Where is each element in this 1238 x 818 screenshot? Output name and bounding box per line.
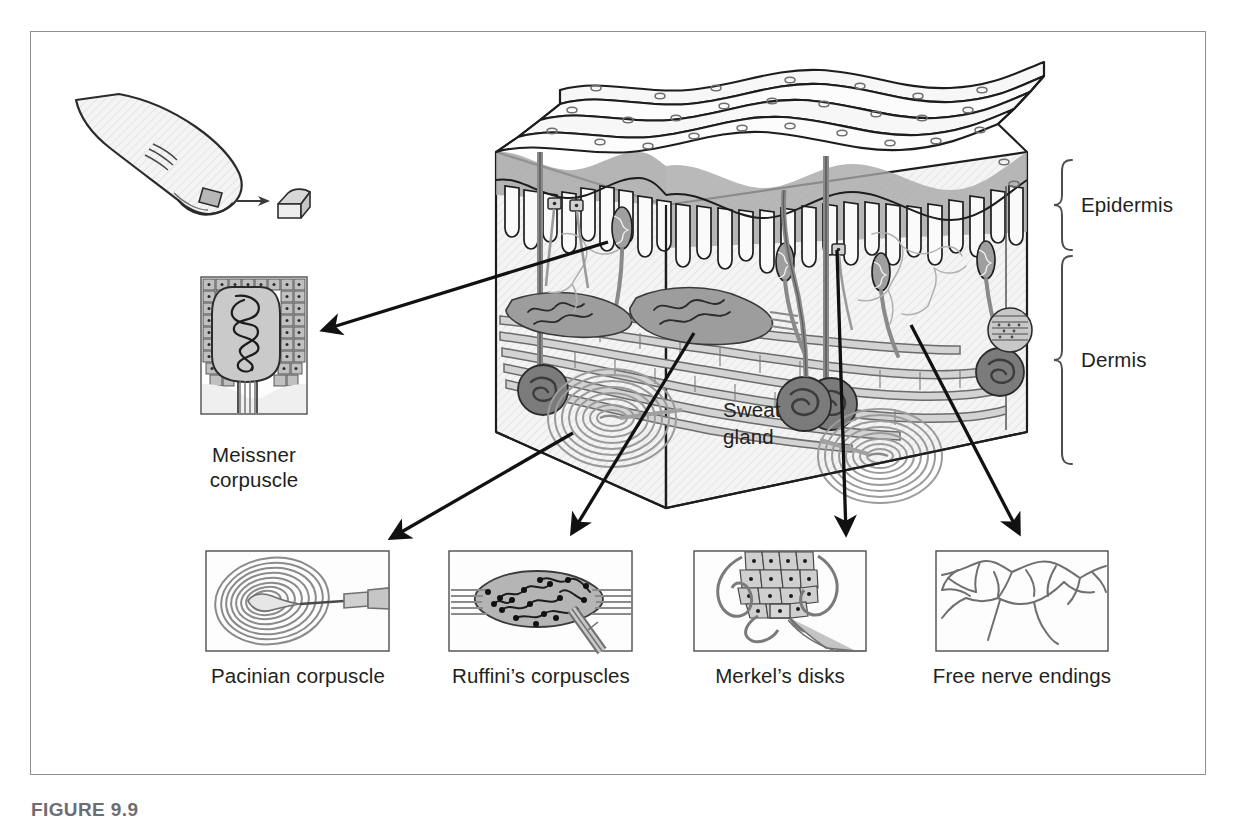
pacinian-corpuscle-icon — [206, 550, 389, 651]
epidermis-bracket — [1054, 160, 1072, 250]
figure-root: Epidermis Dermis Sweat gland Meissner co… — [0, 0, 1238, 818]
ruffini-label: Ruffini’s corpuscles — [419, 664, 663, 688]
free-nerve-label: Free nerve endings — [900, 664, 1144, 688]
figure-caption: FIGURE 9.9 — [31, 799, 138, 818]
dermis-bracket — [1054, 256, 1072, 464]
skin-sample-block-icon — [278, 189, 310, 218]
merkel-label: Merkel’s disks — [658, 664, 902, 688]
merkel-disk-icon — [694, 551, 866, 651]
nerve-bundle-cross-section — [988, 308, 1032, 352]
skin-diagram-artwork — [0, 0, 1238, 818]
meissner-label-line1: Meissner — [198, 443, 310, 467]
epidermis-label: Epidermis — [1081, 193, 1173, 217]
pacinian-label: Pacinian corpuscle — [176, 664, 420, 688]
sweat-gland-label-line2: gland — [723, 425, 774, 449]
dermis-label: Dermis — [1081, 348, 1147, 372]
sweat-gland-label-line1: Sweat — [723, 398, 780, 422]
free-nerve-ending-icon — [936, 551, 1108, 651]
meissner-corpuscle-icon — [201, 277, 307, 414]
fingertip-icon — [76, 94, 242, 215]
ruffini-corpuscle-icon — [449, 551, 632, 651]
meissner-label-line2: corpuscle — [198, 468, 310, 492]
arrow-to-pacinian — [391, 433, 573, 538]
